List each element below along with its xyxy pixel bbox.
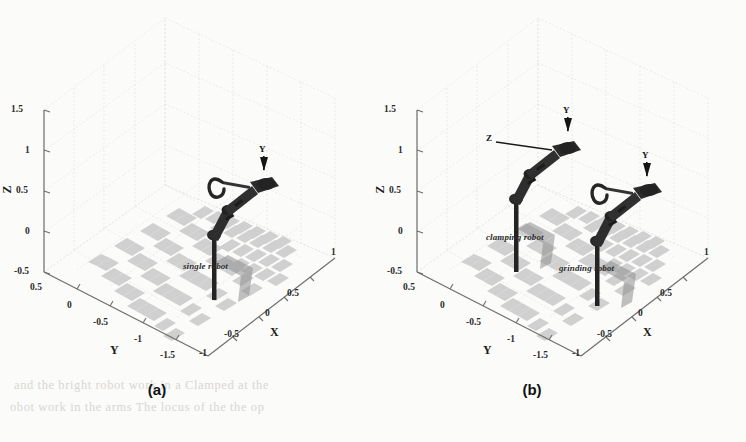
panel-b-z-tick-2: 0.5 bbox=[389, 185, 401, 195]
panel-a-y-tick-4: -1.5 bbox=[160, 350, 175, 360]
panel-b-z-tick-3: 0 bbox=[398, 226, 403, 236]
panel-a-y-tick-2: -0.5 bbox=[93, 317, 108, 327]
panel-b-y-tick-0: 0.5 bbox=[403, 282, 415, 292]
panel-a-y-axis-name: Y bbox=[110, 343, 119, 358]
caption-panel-b: (b) bbox=[512, 381, 552, 398]
panel-a-z-tick-0: 1.5 bbox=[11, 104, 23, 114]
panel-b-x-tick-3: 0.5 bbox=[660, 288, 672, 298]
panel-b-z-axis-name: Z bbox=[373, 179, 388, 201]
panel-a-x-tick-0: -1 bbox=[199, 348, 207, 358]
panel-b-plot bbox=[373, 0, 746, 400]
panel-b-x-tick-4: 1 bbox=[704, 247, 709, 257]
panel-a-x-tick-2: 0 bbox=[265, 308, 270, 318]
panel-a-x-tick-4: 1 bbox=[331, 247, 336, 257]
panel-b-y-tick-2: -0.5 bbox=[466, 317, 481, 327]
frame-pointer-z bbox=[496, 142, 552, 150]
panel-a-z-axis-name: Z bbox=[0, 179, 15, 201]
robot-label-single: single robot bbox=[183, 261, 228, 271]
axis-ticks bbox=[417, 110, 687, 341]
panel-a-z-tick-1: 1 bbox=[25, 145, 30, 155]
robot-label-grinding: grinding robot bbox=[559, 263, 614, 273]
checkerboard-floor bbox=[461, 206, 670, 341]
caption-panel-a: (a) bbox=[137, 381, 177, 398]
panel-b-x-axis-name: X bbox=[643, 325, 652, 340]
bleed-text-line-2: obot work in the arms The locus of the t… bbox=[10, 400, 265, 415]
frame-label-b-y-clamping: Y bbox=[563, 105, 570, 115]
figure-container: and the bright robot work in a Clamped a… bbox=[0, 0, 746, 442]
frame-label-b-z: Z bbox=[486, 133, 492, 143]
panel-a-x-axis-name: X bbox=[270, 325, 279, 340]
panel-a-x-tick-1: -0.5 bbox=[224, 329, 239, 339]
panel-b-y-tick-1: 0 bbox=[440, 300, 445, 310]
panel-b: 1.5 1 0.5 0 -0.5 Z 0.5 0 -0.5 -1 -1.5 Y … bbox=[373, 0, 746, 400]
panel-b-y-tick-3: -1 bbox=[507, 334, 515, 344]
panel-a-z-tick-2: 0.5 bbox=[16, 185, 28, 195]
panel-b-z-tick-1: 1 bbox=[398, 145, 403, 155]
panel-a-z-tick-3: 0 bbox=[25, 226, 30, 236]
panel-a-z-tick-4: -0.5 bbox=[14, 266, 29, 276]
panel-b-x-tick-1: -0.5 bbox=[597, 329, 612, 339]
panel-b-z-tick-4: -0.5 bbox=[387, 266, 402, 276]
panel-b-z-tick-0: 1.5 bbox=[384, 104, 396, 114]
robot-label-clamping: clamping robot bbox=[486, 232, 544, 242]
panel-b-y-tick-4: -1.5 bbox=[533, 350, 548, 360]
panel-a-y-tick-1: 0 bbox=[67, 300, 72, 310]
panel-a: 1.5 1 0.5 0 -0.5 Z 0.5 0 -0.5 -1 -1.5 Y … bbox=[0, 0, 373, 400]
panel-a-x-tick-3: 0.5 bbox=[287, 288, 299, 298]
frame-label-b-y-grinding: Y bbox=[642, 150, 649, 160]
panel-b-y-axis-name: Y bbox=[483, 343, 492, 358]
panel-a-plot bbox=[0, 0, 373, 400]
panel-b-x-tick-0: -1 bbox=[572, 348, 580, 358]
frame-label-a-y: Y bbox=[259, 144, 266, 154]
frame-arrow-y bbox=[643, 162, 651, 177]
panel-a-y-tick-0: 0.5 bbox=[30, 282, 42, 292]
frame-arrow-y bbox=[564, 117, 572, 132]
panel-a-y-tick-3: -1 bbox=[134, 334, 142, 344]
panel-b-x-tick-2: 0 bbox=[638, 308, 643, 318]
